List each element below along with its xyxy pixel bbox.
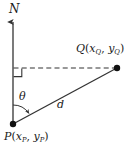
- point-q-close-paren: ): [120, 42, 124, 55]
- figure-container: N Q(xQ, yQ) P(xP, yP) θ d: [0, 0, 138, 150]
- angle-arc-theta-icon: [13, 105, 29, 113]
- distance-line-d: [13, 69, 116, 125]
- right-angle-marker-icon: [14, 68, 22, 76]
- point-p-close-paren: ): [44, 130, 48, 143]
- angle-theta-label: θ: [19, 91, 26, 102]
- point-q-label: Q(xQ, yQ): [76, 43, 124, 55]
- north-direction-label: N: [9, 3, 20, 15]
- point-p-comma: ,: [27, 130, 34, 143]
- point-p-dot: [10, 121, 16, 127]
- point-q-dot: [114, 65, 120, 71]
- distance-d-label: d: [57, 99, 64, 110]
- point-q-symbol: Q: [76, 42, 85, 55]
- point-p-label: P(xP, yP): [4, 131, 49, 143]
- diagram-canvas: [0, 0, 138, 150]
